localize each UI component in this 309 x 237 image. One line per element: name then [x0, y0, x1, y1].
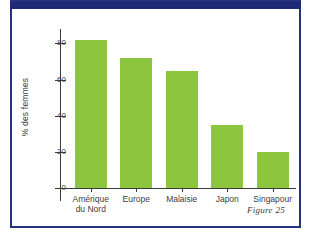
plot-area: % des femmes 020406080 Amérique du NordE… [12, 9, 303, 228]
bar [120, 58, 152, 188]
figure-container: % des femmes 020406080 Amérique du NordE… [0, 0, 309, 237]
y-tick-label: 60 [44, 76, 66, 84]
chart-card: % des femmes 020406080 Amérique du NordE… [10, 9, 301, 228]
y-tick-label-wrap: 80 [12, 39, 66, 47]
y-tick-label-wrap: 20 [12, 148, 66, 156]
y-tick-label: 40 [44, 112, 66, 120]
y-tick-label: 80 [44, 39, 66, 47]
bar [75, 40, 107, 188]
y-axis-title: % des femmes [20, 57, 30, 157]
y-tick-label: 0 [44, 184, 66, 192]
bar [166, 71, 198, 188]
y-tick-label-wrap: 0 [12, 184, 66, 192]
bar [211, 125, 243, 188]
bar [257, 152, 289, 188]
figure-caption: Figure 25 [247, 205, 285, 215]
x-tick-label: Singapour [244, 194, 302, 204]
y-tick-label-wrap: 60 [12, 76, 66, 84]
top-banner [10, 0, 301, 9]
banner-sheen [10, 0, 301, 3]
y-tick-label-wrap: 40 [12, 112, 66, 120]
x-axis-line [56, 188, 296, 189]
y-tick-label: 20 [44, 148, 66, 156]
